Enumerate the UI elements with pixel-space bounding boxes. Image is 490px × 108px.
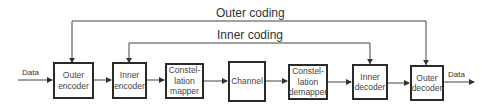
constellation-mapper-block: Constel-lationmapper <box>165 63 204 99</box>
constellation-demapper-block: Constel-lationdemapper <box>288 64 328 100</box>
block-text: mapper <box>169 86 201 97</box>
block-text: encoder <box>114 81 145 92</box>
block-text: lation <box>289 77 327 88</box>
outer-coding-label: Outer coding <box>216 6 285 20</box>
block-text: Outer <box>412 73 443 84</box>
block-text: encoder <box>58 81 89 92</box>
inner-encoder-block: Innerencoder <box>112 62 147 99</box>
block-text: Inner <box>114 70 145 81</box>
block-text: Constel- <box>169 65 201 76</box>
block-text: Outer <box>58 70 89 81</box>
outer-decoder-block: Outerdecoder <box>410 65 444 101</box>
block-text: lation <box>169 76 201 87</box>
block-text: decoder <box>355 82 386 93</box>
inner-decoder-block: Innerdecoder <box>352 64 388 100</box>
outer-encoder-block: Outerencoder <box>53 62 94 99</box>
output-data-label: Data <box>448 70 465 79</box>
channel-block: Channel <box>228 61 266 102</box>
block-text: Channel <box>231 76 263 87</box>
block-text: Constel- <box>289 66 327 77</box>
block-text: decoder <box>412 83 443 94</box>
input-data-label: Data <box>22 68 39 77</box>
block-text: demapper <box>289 87 327 98</box>
inner-coding-label: Inner coding <box>217 28 283 42</box>
block-text: Inner <box>355 72 386 83</box>
